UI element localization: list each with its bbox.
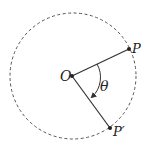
point-p [127, 47, 131, 51]
label-theta: θ [100, 78, 109, 94]
label-o: O [60, 68, 72, 84]
label-p-prime: P′ [112, 124, 125, 139]
rotation-diagram: O P P′ θ [0, 0, 150, 149]
point-p-prime [108, 126, 112, 130]
label-p: P [131, 41, 141, 56]
